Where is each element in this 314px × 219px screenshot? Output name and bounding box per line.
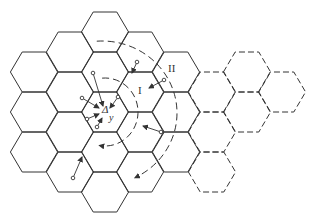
diagram-canvas (0, 0, 314, 219)
hex-cell (81, 12, 128, 52)
interference-source-icon (80, 96, 84, 100)
interference-source-icon (162, 78, 166, 82)
interference-arrow-icon (89, 114, 99, 118)
interference-arrow-icon (143, 126, 159, 131)
interference-source-icon (135, 60, 139, 64)
dashed-hex-cell (223, 52, 270, 92)
interference-arrow-icon (98, 118, 102, 125)
interference-source-icon (91, 71, 95, 75)
ring-2-label: II (168, 63, 175, 74)
dashed-hex-cell (258, 72, 305, 112)
interference-arrow-icon (110, 98, 117, 108)
interference-source-icon (116, 95, 120, 99)
dashed-hex-cell (223, 92, 270, 132)
interference-arrow-icon (94, 75, 103, 106)
dashed-cells (188, 52, 305, 192)
center-cell-label: Δ (102, 104, 108, 115)
interference-source-icon (71, 176, 75, 180)
center-cell-sublabel: y (109, 113, 113, 123)
interference-source-icon (95, 125, 99, 129)
ring-1-label: I (138, 85, 142, 96)
hex-cell-diagram: Δ y I II (0, 0, 314, 219)
hex-cell (81, 132, 128, 172)
interference-arrow-icon (74, 157, 82, 176)
interference-source-icon (85, 117, 89, 121)
hex-cell (81, 172, 128, 212)
interference-source-icon (159, 130, 163, 134)
hex-cell (81, 52, 128, 92)
